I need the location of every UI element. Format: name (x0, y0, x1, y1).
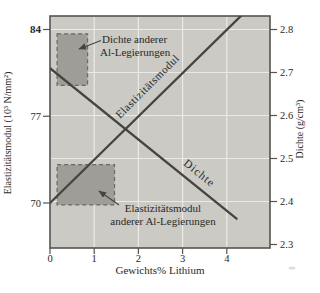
x-tick-label-2: 2 (136, 253, 141, 264)
right-tick-label-2.8: 2.8 (280, 24, 293, 35)
print-smudge (289, 267, 296, 270)
density-region-label-line2: Al-Legierungen (100, 46, 171, 58)
x-tick-label-0: 0 (47, 253, 52, 264)
modulus-region-label-line1: Elastizitätsmodul (125, 202, 201, 214)
chart-svg: 012347077842.32.42.52.62.72.8 Elastizitä… (0, 0, 320, 293)
left-axis-title: Elastizitätsmodul (10³ N/mm²) (2, 72, 14, 195)
x-axis-title: Gewichts% Lithium (116, 264, 205, 276)
density-region-label-line1: Dichte anderer (102, 33, 167, 45)
x-tick-label-4: 4 (224, 253, 230, 264)
right-tick-label-2.5: 2.5 (280, 153, 293, 164)
right-tick-label-2.6: 2.6 (280, 110, 293, 121)
x-tick-label-3: 3 (180, 253, 185, 264)
right-tick-label-2.4: 2.4 (280, 196, 294, 207)
right-tick-label-2.3: 2.3 (280, 239, 293, 250)
left-tick-label-77: 77 (31, 111, 42, 122)
right-tick-label-2.7: 2.7 (280, 67, 293, 78)
x-tick-label-1: 1 (92, 253, 97, 264)
textbook-figure: 012347077842.32.42.52.62.72.8 Elastizitä… (0, 0, 320, 293)
modulus-region-label-line2: anderer Al-Legierungen (110, 215, 216, 227)
region-modulus-other-alloys (57, 165, 114, 205)
right-axis-title: Dichte (g/cm³) (294, 100, 306, 159)
left-tick-label-70: 70 (31, 198, 42, 209)
left-tick-label-84: 84 (30, 23, 42, 35)
